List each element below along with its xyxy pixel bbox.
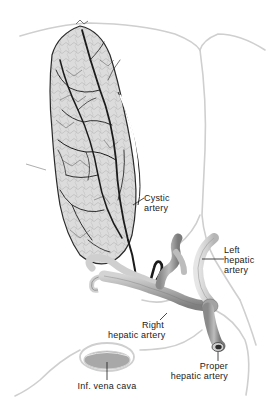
gallbladder bbox=[26, 20, 140, 264]
label-line: Proper bbox=[170, 361, 228, 371]
label-line: Right bbox=[108, 320, 164, 330]
label-line: hepatic artery bbox=[170, 371, 228, 381]
illustration bbox=[0, 0, 280, 404]
label-line: artery bbox=[224, 265, 254, 275]
label-line: Inf. vena cava bbox=[74, 381, 140, 391]
label-right-hepatic-artery: Right hepatic artery bbox=[108, 320, 164, 340]
label-line: hepatic bbox=[224, 255, 254, 265]
label-line: hepatic artery bbox=[108, 330, 164, 340]
anatomy-figure: Cystic artery Left hepatic artery Right … bbox=[0, 0, 280, 404]
label-left-hepatic-artery: Left hepatic artery bbox=[224, 245, 254, 275]
label-cystic-artery: Cystic artery bbox=[144, 193, 170, 213]
label-proper-hepatic-artery: Proper hepatic artery bbox=[170, 361, 228, 381]
label-line: Cystic bbox=[144, 193, 170, 203]
label-inf-vena-cava: Inf. vena cava bbox=[74, 381, 140, 391]
label-line: artery bbox=[144, 203, 170, 213]
label-line: Left bbox=[224, 245, 254, 255]
